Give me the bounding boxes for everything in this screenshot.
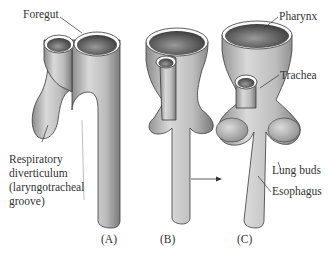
label-lung-buds: Lung buds bbox=[272, 164, 321, 177]
panel-label-b: (B) bbox=[160, 233, 175, 245]
panel-label-a: (A) bbox=[101, 233, 117, 245]
foregut-development-illustration bbox=[0, 0, 331, 254]
label-respiratory-line2: diverticulum bbox=[9, 167, 68, 180]
panel-b-drawing bbox=[146, 28, 213, 224]
label-respiratory-line4: groove) bbox=[9, 195, 45, 208]
label-pharynx: Pharynx bbox=[279, 10, 317, 23]
label-respiratory-line3: (laryngotracheal bbox=[9, 181, 84, 194]
label-trachea: Trachea bbox=[280, 69, 317, 82]
progression-arrow bbox=[191, 177, 222, 182]
panel-label-c: (C) bbox=[237, 233, 252, 245]
label-foregut: Foregut bbox=[23, 8, 59, 21]
label-respiratory-line1: Respiratory bbox=[9, 153, 63, 166]
label-esophagus: Esophagus bbox=[272, 185, 322, 198]
panel-a-drawing bbox=[32, 17, 120, 228]
